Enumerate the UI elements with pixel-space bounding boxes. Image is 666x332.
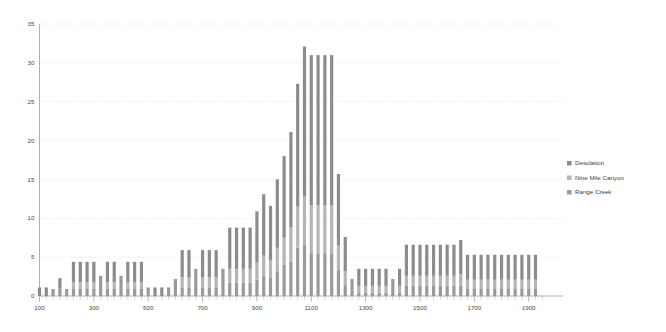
gridlines-group [40,24,564,257]
bar-segment [316,253,319,296]
bar-stack [201,250,204,296]
bar-segment [337,245,340,269]
bar-segment [255,263,258,280]
bar-stack [493,255,496,296]
bar-stack [113,262,116,296]
bar-stack [466,255,469,296]
bar-segment [466,280,469,289]
bar-segment [384,269,387,286]
bar-stack [208,250,211,296]
y-tick-label: 25 [28,98,35,105]
bar-stack [432,245,435,296]
bar-stack [371,269,374,296]
bar-segment [418,286,421,296]
bar-segment [371,293,374,296]
bar-segment [167,287,170,296]
bar-stack [459,240,462,296]
bar-segment [228,228,231,269]
bar-segment [398,286,401,293]
bar-segment [235,269,238,283]
bar-segment [500,255,503,280]
bar-segment [425,286,428,296]
x-tick-label: 1300 [359,304,373,311]
bar-stack [480,255,483,296]
bar-segment [221,269,224,296]
x-tick-label: 500 [143,304,154,311]
bar-stack [282,156,285,296]
bar-segment [323,205,326,253]
bar-stack [473,255,476,296]
y-tick-label: 5 [31,253,35,260]
bar-segment [181,277,184,287]
x-tick-label: 700 [197,304,208,311]
bar-stack [72,262,75,296]
bar-segment [282,265,285,296]
bar-segment [480,280,483,289]
bar-segment [119,276,122,296]
bar-segment [282,238,285,265]
bar-stack [330,55,333,296]
y-axis-tick-labels: 05101520253035 [28,20,35,299]
bar-segment [208,277,211,287]
bar-segment [242,228,245,269]
bar-stack [99,276,102,296]
legend-label: Range Creek [575,188,612,195]
bar-stack [249,228,252,296]
bar-segment [187,287,190,296]
bar-stack [174,279,177,296]
bar-segment [520,255,523,280]
bar-segment [486,280,489,289]
bar-stack [446,245,449,296]
bar-segment [255,211,258,262]
bar-segment [357,286,360,293]
bar-segment [323,55,326,205]
bar-segment [296,248,299,296]
bar-segment [228,269,231,283]
bar-segment [473,280,476,289]
bar-segment [330,55,333,205]
bar-segment [65,289,68,296]
bar-segment [459,274,462,286]
bar-segment [58,288,61,296]
bar-stack [51,289,54,296]
x-tick-label: 1700 [467,304,481,311]
bar-stack [38,287,41,296]
legend-label: Nine Mile Canyon [575,174,624,181]
bar-segment [378,269,381,286]
bar-segment [405,245,408,276]
bar-segment [316,55,319,205]
bar-segment [344,271,347,285]
bar-stack [276,179,279,296]
bar-segment [262,256,265,276]
bar-segment [486,255,489,280]
bar-stack [221,269,224,296]
x-axis [40,296,564,302]
bar-segment [140,282,143,289]
bar-segment [187,250,190,277]
bar-stack [242,228,245,296]
bar-segment [384,293,387,296]
bar-segment [337,270,340,296]
bar-segment [371,269,374,286]
bar-segment [79,262,82,282]
bar-stack [412,245,415,296]
chart-container: 05101520253035 1003005007009001100130015… [0,0,666,332]
bar-segment [459,286,462,296]
bar-segment [106,289,109,296]
bar-segment [378,293,381,296]
y-tick-label: 0 [31,292,35,299]
bar-segment [452,286,455,296]
bar-segment [79,289,82,296]
bar-segment [242,283,245,296]
bar-segment [85,289,88,296]
bar-segment [215,287,218,296]
bar-segment [534,255,537,280]
bar-stack [187,250,190,296]
bar-segment [439,276,442,286]
bar-stack [316,55,319,296]
bar-segment [276,272,279,296]
bar-segment [344,237,347,271]
bar-segment [262,276,265,296]
bar-segment [405,286,408,296]
bar-segment [133,289,136,296]
